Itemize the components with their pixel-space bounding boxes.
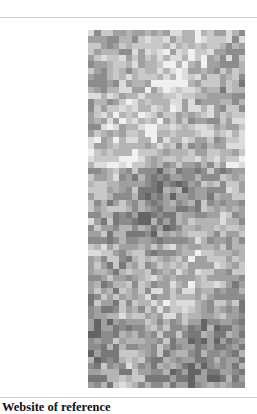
top-divider bbox=[0, 17, 257, 18]
grid-cell bbox=[239, 382, 245, 388]
section-heading: Website of reference bbox=[2, 400, 111, 414]
reference-image-grid bbox=[88, 30, 245, 388]
caption-divider bbox=[0, 397, 257, 398]
